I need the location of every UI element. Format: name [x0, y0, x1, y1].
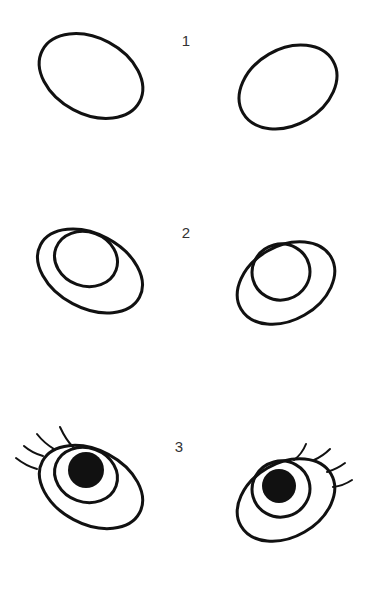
step-3-right-eyelash-2 — [314, 449, 330, 460]
step-2-left-eye-outline — [23, 212, 157, 330]
step-3-label: 3 — [175, 438, 183, 455]
step-3-left-eyelash-1 — [60, 427, 73, 447]
step-3-left-eyelash-4 — [16, 458, 37, 469]
step-1-label: 1 — [182, 32, 190, 49]
step-3-left-pupil — [68, 452, 104, 488]
step-2-right-iris — [246, 237, 317, 306]
step-3-left-eyelash-2 — [37, 434, 54, 449]
step-2-left-iris — [47, 223, 126, 296]
step-3-right-eyelash-3 — [327, 463, 345, 472]
step-1-right-eye-outline — [224, 28, 352, 146]
step-3-left-eyelash-3 — [24, 446, 43, 456]
step-3-right-pupil — [262, 469, 296, 503]
step-3-drawing — [16, 427, 352, 558]
step-1-left-eye-outline — [25, 17, 158, 136]
eye-drawing-steps — [0, 0, 388, 594]
step-2-label: 2 — [182, 224, 190, 241]
step-2-right-eye-outline — [222, 225, 349, 341]
